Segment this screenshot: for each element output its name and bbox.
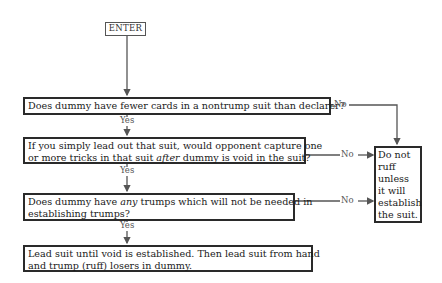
edge-label-no: No — [334, 99, 347, 109]
action-text-line: unless — [378, 173, 418, 185]
action-text-line: it will — [378, 185, 418, 197]
action-text-line2: and trump (ruff) losers in dummy. — [28, 260, 308, 272]
edge-label-yes: Yes — [120, 115, 134, 125]
decision-box-fewer-cards: Does dummy have fewer cards in a nontrum… — [23, 97, 331, 115]
decision-text: Does dummy have fewer cards in a nontrum… — [28, 100, 345, 111]
edge-label-no: No — [341, 195, 354, 205]
decision-text-line1: Does dummy have any trumps which will no… — [28, 196, 290, 208]
start-node-enter: ENTER — [105, 22, 146, 36]
decision-text-line2: establishing trumps? — [28, 208, 290, 220]
action-box-do-not-ruff: Do not ruff unless it will establish the… — [374, 146, 422, 223]
edge-label-yes: Yes — [120, 165, 134, 175]
decision-text-line1: If you simply lead out that suit, would … — [28, 140, 301, 152]
action-text-line: Do not — [378, 149, 418, 161]
edge-label-no: No — [341, 149, 354, 159]
decision-text-line2: or more tricks in that suit after dummy … — [28, 152, 301, 164]
decision-box-opponent-capture: If you simply lead out that suit, would … — [23, 137, 306, 164]
action-box-lead-suit: Lead suit until void is established. The… — [23, 245, 313, 272]
decision-box-extra-trumps: Does dummy have any trumps which will no… — [23, 193, 295, 221]
edge-label-yes: Yes — [120, 220, 134, 230]
action-text-line: the suit. — [378, 209, 418, 221]
action-text-line1: Lead suit until void is established. The… — [28, 248, 308, 260]
action-text-line: establish — [378, 197, 418, 209]
action-text-line: ruff — [378, 161, 418, 173]
